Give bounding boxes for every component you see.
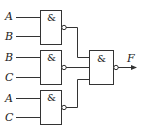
output-arrow-icon <box>131 65 137 70</box>
gate-4-symbol: & <box>97 54 106 64</box>
input-label-c: C <box>5 72 13 83</box>
logic-diagram: & & & & A B B C A C F <box>0 0 147 137</box>
output-label-f: F <box>127 53 135 64</box>
input-label-a: A <box>5 93 13 104</box>
circuit-wires <box>0 0 147 137</box>
gate-2-symbol: & <box>47 53 56 63</box>
input-label-c: C <box>5 112 13 123</box>
gate-1-symbol: & <box>47 13 56 23</box>
gate-3-symbol: & <box>47 93 56 103</box>
input-label-a: A <box>5 11 13 22</box>
input-label-b: B <box>5 31 13 42</box>
input-label-b: B <box>5 52 13 63</box>
